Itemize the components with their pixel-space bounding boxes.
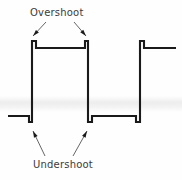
leader-arrowhead bbox=[82, 131, 87, 138]
overshoot-label: Overshoot bbox=[30, 8, 84, 18]
leader-arrowhead bbox=[33, 131, 38, 138]
annotation-leader-lines bbox=[33, 22, 87, 156]
overshoot-undershoot-figure: Overshoot Undershoot bbox=[0, 0, 182, 180]
waveform-plot bbox=[0, 0, 182, 180]
undershoot-label: Undershoot bbox=[33, 160, 93, 170]
pulse-waveform-trace bbox=[8, 41, 176, 122]
waveform-trace-group bbox=[8, 41, 176, 122]
